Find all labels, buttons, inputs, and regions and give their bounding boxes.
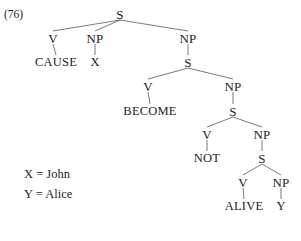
tree-edge-s-2-to-v-2 [148,68,188,79]
tree-node-v-4: V [238,176,248,189]
tree-node-np-2: NP [179,32,196,45]
tree-node-s-3: S [229,105,236,118]
tree-node-np-3: NP [224,80,241,93]
tree-edge-v-2-to-become [148,92,150,104]
tree-edge-s-2-to-np-3 [188,68,233,79]
tree-node-x-arg: X [90,56,99,69]
tree-edge-s-3-to-np-4 [233,117,262,127]
tree-node-np-4: NP [253,128,270,141]
tree-node-v-3: V [202,128,212,141]
tree-node-np-1: NP [86,32,103,45]
tree-edge-v-4-to-alive [243,188,244,199]
figure-container: (76) SVNPNPCAUSEXSVNPBECOMESVNPNOTSVNPAL… [0,0,301,241]
tree-node-np-5: NP [272,176,289,189]
tree-edge-s-4-to-np-5 [262,164,281,175]
tree-node-not: NOT [194,152,220,165]
tree-node-y-arg: Y [276,200,285,213]
tree-edge-s-4-to-v-4 [243,164,262,175]
tree-node-cause: CAUSE [35,56,77,69]
tree-edge-s-root-to-v-1 [53,20,120,31]
tree-node-s-4: S [258,152,265,165]
tree-node-v-2: V [143,80,153,93]
tree-node-alive: ALIVE [225,200,264,213]
legend-line: X = John [24,164,72,184]
legend-line: Y = Alice [24,184,72,204]
tree-node-v-1: V [48,32,58,45]
legend: X = JohnY = Alice [24,164,72,204]
tree-edge-v-1-to-cause [53,44,56,55]
tree-node-become: BECOME [123,105,176,118]
tree-node-s-root: S [116,8,123,21]
tree-edge-s-3-to-v-3 [207,117,233,127]
tree-edge-s-root-to-np-2 [120,20,188,31]
tree-node-s-2: S [184,56,191,69]
